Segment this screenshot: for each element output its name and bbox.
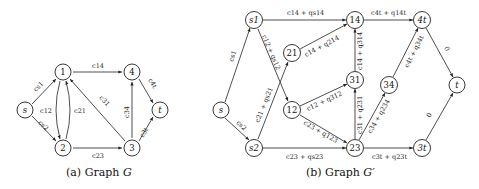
node-1: 1: [55, 64, 71, 80]
svg-text:t: t: [158, 105, 162, 115]
edge-2-1: [66, 81, 70, 139]
graph-g: cs1 cs2 c12 c21 c14 c23 c31 c34 c4t c3t …: [17, 62, 168, 160]
svg-text:s: s: [219, 105, 224, 115]
node-3t: 3t: [414, 140, 431, 157]
diagram-canvas: cs1 cs2 c12 c21 c14 c23 c31 c34 c4t c3t …: [0, 0, 479, 189]
edge-label-cs1: cs1: [32, 80, 46, 94]
caption-graph-gprime: (b) Graph G′: [306, 166, 375, 179]
node-t: t: [152, 102, 168, 118]
edge-label-23-3t: c3t + q23t: [372, 153, 407, 161]
caption-graph-gprime-prefix: (b) Graph: [306, 166, 363, 179]
svg-text:31: 31: [350, 75, 361, 85]
svg-text:3t: 3t: [418, 143, 427, 153]
node-4t: 4t: [414, 12, 431, 29]
edge-label-cs2: cs2: [235, 119, 249, 133]
svg-text:s: s: [23, 105, 28, 115]
svg-text:21: 21: [287, 48, 298, 58]
edge-label-c14: c14: [92, 62, 104, 70]
node-2: 2: [55, 140, 71, 156]
node-21: 21: [284, 45, 301, 62]
caption-graph-gprime-var: G′: [363, 166, 374, 179]
edge-label-c12: c12: [40, 107, 52, 115]
edge-label-cs1: cs1: [227, 50, 238, 63]
svg-text:s2: s2: [249, 143, 259, 153]
edge-label-31-14: c14 + q314: [356, 32, 364, 70]
svg-text:12: 12: [287, 105, 298, 115]
caption-graph-g-var: G: [123, 166, 132, 179]
edge-label-14-4t: c4t + q14t: [371, 9, 406, 17]
svg-text:34: 34: [384, 80, 395, 90]
node-s1: s1: [246, 12, 263, 29]
graph-gprime: cs1 cs2 c14 + qs14 c12 + qs12 c21 + qs21…: [213, 9, 465, 161]
edge-label-c3t: c3t: [138, 126, 150, 139]
edge-label-c23: c23: [92, 152, 104, 160]
caption-graph-g-prefix: (a) Graph: [66, 166, 123, 179]
svg-text:1: 1: [60, 67, 65, 77]
edge-label-s1-12: c12 + qs12: [260, 34, 282, 71]
node-3: 3: [124, 140, 140, 156]
node-4: 4: [124, 64, 140, 80]
svg-text:s1: s1: [249, 15, 259, 25]
edge-label-c4t: c4t: [146, 77, 158, 90]
edge-label-3t-t: 0: [425, 111, 434, 119]
edge-label-4t-t: 0: [442, 45, 451, 53]
svg-text:2: 2: [60, 143, 65, 153]
svg-text:23: 23: [350, 143, 361, 153]
node-31: 31: [347, 72, 364, 89]
edge-label-s2-23: c23 + qs23: [286, 153, 323, 161]
edge-s-s1: [225, 28, 250, 102]
edge-4t-t: [426, 28, 453, 77]
svg-text:4: 4: [129, 67, 134, 77]
node-23: 23: [347, 140, 364, 157]
edge-label-cs2: cs2: [37, 119, 51, 133]
edge-1-2: [56, 81, 60, 139]
node-34: 34: [381, 77, 398, 94]
node-t: t: [449, 77, 465, 93]
node-s2: s2: [246, 140, 263, 157]
svg-text:4t: 4t: [417, 15, 427, 25]
edge-label-12-23: c23 + q123: [302, 119, 339, 145]
svg-text:t: t: [455, 80, 459, 90]
edge-label-c34: c34: [123, 106, 131, 118]
node-s: s: [213, 102, 229, 118]
svg-text:14: 14: [350, 15, 361, 25]
node-s: s: [17, 102, 33, 118]
node-14: 14: [347, 12, 364, 29]
caption-graph-g: (a) Graph G: [66, 166, 132, 179]
svg-text:3: 3: [129, 143, 134, 153]
edge-label-c21: c21: [74, 107, 86, 115]
edge-label-c31: c31: [98, 94, 112, 108]
edge-label-23-31: c31 + q231: [356, 96, 364, 134]
node-12: 12: [284, 102, 301, 119]
edge-label-s1-14: c14 + qs14: [287, 9, 324, 17]
